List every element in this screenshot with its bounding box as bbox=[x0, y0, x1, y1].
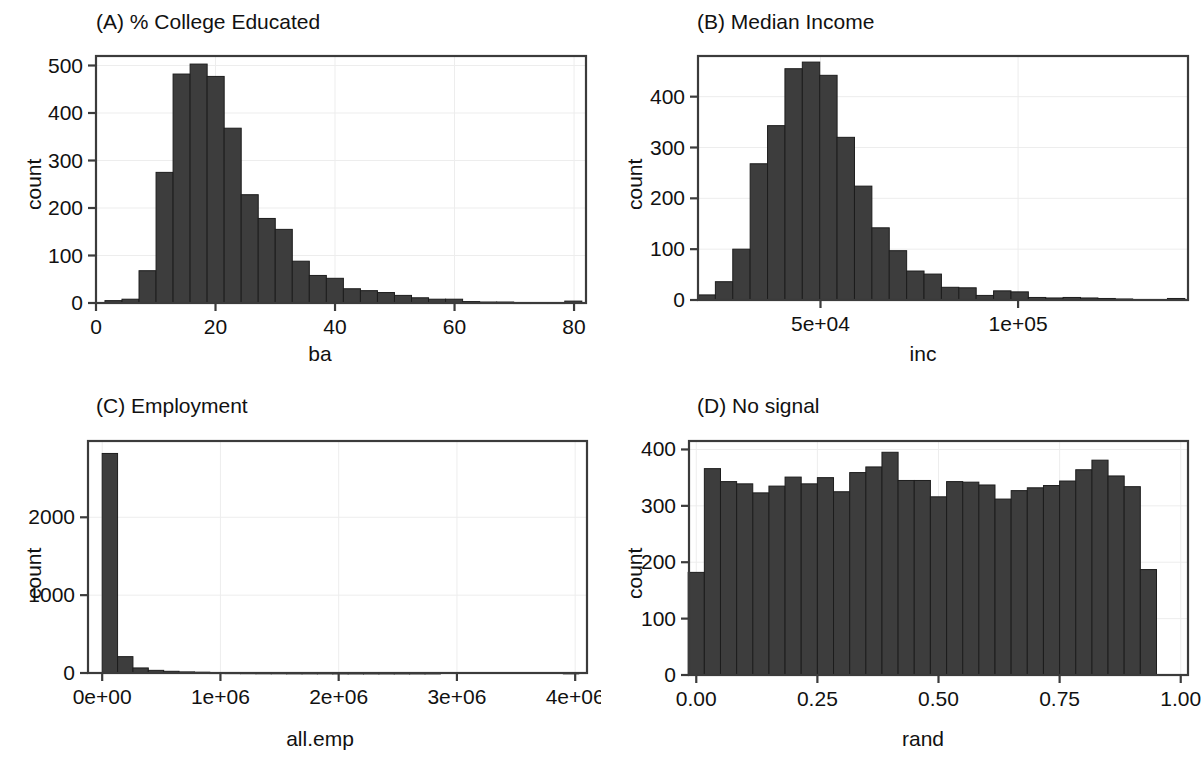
histogram-bar bbox=[275, 229, 292, 303]
x-tick-label: 2e+06 bbox=[309, 685, 368, 708]
histogram-bar bbox=[1011, 491, 1027, 675]
panel-a-plot: 0100200300400500020406080 bbox=[0, 0, 601, 384]
y-tick-label: 400 bbox=[48, 101, 83, 124]
y-tick-label: 300 bbox=[650, 136, 685, 159]
y-tick-label: 300 bbox=[48, 149, 83, 172]
histogram-bar bbox=[994, 291, 1011, 300]
panel-a-college-educated: (A) % College Educated count ba 01002003… bbox=[0, 0, 601, 384]
histogram-bar bbox=[834, 492, 850, 675]
histogram-bar bbox=[817, 478, 833, 675]
histogram-bar bbox=[802, 62, 819, 300]
x-tick-label: 0e+00 bbox=[73, 685, 132, 708]
histogram-bar bbox=[258, 218, 275, 303]
histogram-bar bbox=[801, 484, 817, 675]
histogram-bar bbox=[837, 137, 854, 300]
y-tick-label: 400 bbox=[650, 85, 685, 108]
panel-d-title: (D) No signal bbox=[697, 394, 820, 418]
histogram-bar bbox=[941, 287, 958, 300]
x-tick-label: 40 bbox=[323, 315, 346, 338]
histogram-bar bbox=[1027, 488, 1043, 675]
histogram-bar bbox=[394, 295, 411, 303]
panel-d-x-axis-label: rand bbox=[902, 727, 944, 751]
panel-b-title: (B) Median Income bbox=[697, 10, 874, 34]
histogram-bar bbox=[139, 271, 156, 303]
panel-b-median-income: (B) Median Income count inc 010020030040… bbox=[601, 0, 1203, 384]
x-tick-label: 1e+05 bbox=[989, 312, 1048, 335]
x-tick-label: 20 bbox=[204, 315, 227, 338]
histogram-bar bbox=[190, 64, 207, 303]
panel-c-y-axis-label: count bbox=[22, 548, 46, 599]
histogram-bar bbox=[343, 289, 360, 303]
x-tick-label: 4e+06 bbox=[546, 685, 601, 708]
histogram-bar bbox=[898, 480, 914, 675]
histogram-bar bbox=[292, 261, 309, 303]
histogram-bar bbox=[715, 282, 732, 300]
histogram-bar bbox=[1060, 481, 1076, 675]
y-tick-label: 500 bbox=[48, 54, 83, 77]
y-tick-label: 100 bbox=[650, 237, 685, 260]
histogram-bar bbox=[173, 74, 190, 303]
panel-c-x-axis-label: all.emp bbox=[286, 727, 354, 751]
panel-d-no-signal: (D) No signal count rand 01002003004000.… bbox=[601, 384, 1203, 769]
histogram-bar bbox=[979, 485, 995, 675]
histogram-bar bbox=[737, 484, 753, 675]
histogram-bar bbox=[733, 249, 750, 300]
histogram-bar bbox=[889, 251, 906, 300]
y-tick-label: 400 bbox=[641, 437, 676, 460]
histogram-bar bbox=[326, 278, 343, 303]
y-tick-label: 200 bbox=[48, 196, 83, 219]
histogram-bar bbox=[360, 291, 377, 303]
histogram-bar bbox=[963, 482, 979, 675]
histogram-bar bbox=[914, 480, 930, 675]
histogram-bar bbox=[377, 293, 394, 303]
histogram-bar bbox=[241, 195, 258, 303]
y-tick-label: 0 bbox=[63, 661, 75, 684]
histogram-bar bbox=[768, 126, 785, 300]
x-tick-label: 80 bbox=[562, 315, 585, 338]
histogram-bar bbox=[882, 452, 898, 675]
histogram-bar bbox=[907, 271, 924, 300]
panel-a-title: (A) % College Educated bbox=[96, 10, 320, 34]
x-tick-label: 0 bbox=[90, 315, 102, 338]
histogram-bar bbox=[309, 275, 326, 303]
x-tick-label: 5e+04 bbox=[791, 312, 850, 335]
histogram-bar bbox=[688, 572, 704, 675]
x-tick-label: 1.00 bbox=[1160, 687, 1201, 710]
histogram-bar bbox=[924, 274, 941, 300]
panel-c-plot: 0100020000e+001e+062e+063e+064e+06 bbox=[0, 384, 601, 769]
histogram-bar bbox=[118, 657, 133, 673]
x-tick-label: 1e+06 bbox=[191, 685, 250, 708]
y-tick-label: 0 bbox=[71, 291, 83, 314]
histogram-bar bbox=[753, 493, 769, 675]
histogram-bar bbox=[1011, 292, 1028, 300]
histogram-bar bbox=[850, 473, 866, 675]
histogram-bar bbox=[820, 75, 837, 300]
y-tick-label: 200 bbox=[650, 186, 685, 209]
panel-d-y-axis-label: count bbox=[623, 548, 647, 599]
x-tick-label: 60 bbox=[443, 315, 466, 338]
x-tick-label: 0.50 bbox=[918, 687, 959, 710]
x-tick-label: 0.25 bbox=[797, 687, 838, 710]
histogram-bar bbox=[854, 186, 871, 300]
x-tick-label: 3e+06 bbox=[427, 685, 486, 708]
histogram-bar bbox=[704, 469, 720, 675]
panel-a-y-axis-label: count bbox=[22, 159, 46, 210]
histogram-bar bbox=[720, 482, 736, 675]
panel-c-employment: (C) Employment count all.emp 0100020000e… bbox=[0, 384, 601, 769]
histogram-bar bbox=[995, 499, 1011, 675]
histogram-bar bbox=[1092, 460, 1108, 675]
histogram-bar bbox=[785, 69, 802, 300]
histogram-bar bbox=[207, 76, 224, 303]
histogram-bar bbox=[1140, 570, 1156, 675]
plot-frame bbox=[88, 441, 587, 673]
panel-c-title: (C) Employment bbox=[96, 394, 248, 418]
histogram-bar bbox=[1043, 486, 1059, 675]
y-tick-label: 2000 bbox=[28, 505, 75, 528]
panel-a-x-axis-label: ba bbox=[308, 342, 331, 366]
panel-b-plot: 01002003004005e+041e+05 bbox=[601, 0, 1203, 384]
panel-d-plot: 01002003004000.000.250.500.751.00 bbox=[601, 384, 1203, 769]
x-tick-label: 0.00 bbox=[676, 687, 717, 710]
histogram-bar bbox=[930, 497, 946, 675]
histogram-bar bbox=[785, 477, 801, 675]
y-tick-label: 300 bbox=[641, 494, 676, 517]
